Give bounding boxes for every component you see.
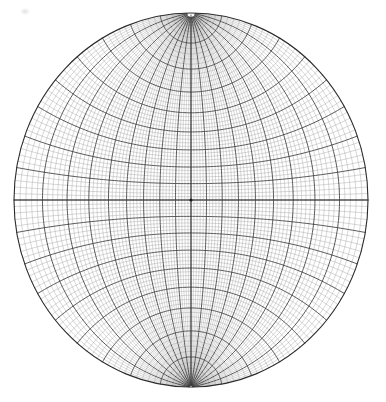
wulff-net-graticule — [0, 0, 386, 402]
center-dot — [189, 198, 192, 201]
plot-background — [0, 0, 386, 402]
stereonet-figure — [0, 0, 386, 402]
center-marker — [189, 198, 192, 201]
